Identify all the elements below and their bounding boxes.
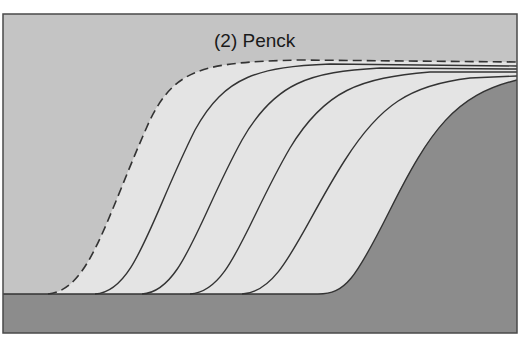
diagram-canvas: (2) Penck: [0, 0, 526, 350]
penck-slope-diagram: (2) Penck: [0, 0, 526, 350]
diagram-title: (2) Penck: [214, 30, 296, 51]
